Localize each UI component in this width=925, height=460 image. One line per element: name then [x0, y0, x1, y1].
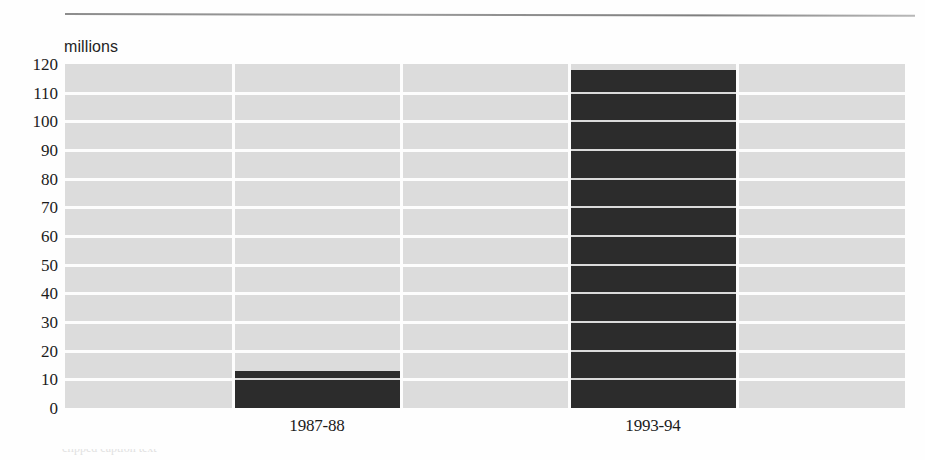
bar-gridline-100 [571, 120, 736, 122]
y-tick-50: 50 [0, 256, 58, 273]
y-tick-60: 60 [0, 228, 58, 245]
y-tick-30: 30 [0, 314, 58, 331]
bar-gridline-50 [571, 264, 736, 266]
bar-gridline-90 [571, 149, 736, 151]
bar-1987-88 [235, 371, 400, 408]
bar-gridline-10 [571, 378, 736, 380]
y-axis-tick-labels: 1201101009080706050403020100 [0, 64, 58, 408]
bar-1993-94 [571, 70, 736, 408]
x-label-1987-88: 1987-88 [195, 416, 440, 436]
clipped-footer-caption: clipped caption text [0, 449, 925, 460]
y-tick-110: 110 [0, 84, 58, 101]
y-tick-10: 10 [0, 371, 58, 388]
bar-gridline-30 [571, 321, 736, 323]
y-tick-80: 80 [0, 170, 58, 187]
bar-chart-figure: millions 1201101009080706050403020100 19… [0, 0, 925, 460]
y-axis-unit-label: millions [64, 38, 118, 56]
bar-gridline-110 [571, 92, 736, 94]
bar-gridline-10 [235, 378, 400, 380]
bar-gridline-40 [571, 292, 736, 294]
bar-gridline-80 [571, 178, 736, 180]
y-tick-0: 0 [0, 400, 58, 417]
y-tick-40: 40 [0, 285, 58, 302]
top-horizontal-rule [65, 13, 915, 17]
bar-gridline-60 [571, 235, 736, 237]
y-tick-90: 90 [0, 142, 58, 159]
y-tick-70: 70 [0, 199, 58, 216]
bar-gridline-20 [571, 350, 736, 352]
plot-area [65, 64, 905, 408]
bar-layer [65, 64, 905, 408]
y-tick-20: 20 [0, 342, 58, 359]
bar-gridline-70 [571, 206, 736, 208]
footer-caption-text: clipped caption text [62, 449, 157, 456]
x-label-1993-94: 1993-94 [531, 416, 776, 436]
y-tick-120: 120 [0, 56, 58, 73]
y-tick-100: 100 [0, 113, 58, 130]
